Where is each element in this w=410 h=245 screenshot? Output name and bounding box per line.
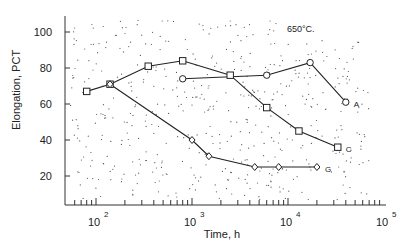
y-tick-label: 20	[40, 170, 52, 182]
x-tick-label: 10	[376, 216, 388, 228]
diamond-marker	[276, 164, 282, 171]
x-tick-label: 10	[88, 216, 100, 228]
series-label-G: G	[325, 165, 331, 174]
series-labels: ACG	[325, 100, 360, 174]
diamond-marker	[252, 164, 258, 171]
circle-marker	[343, 99, 349, 105]
series-G-line	[110, 84, 317, 167]
series-label-A: A	[354, 100, 360, 109]
square-marker	[83, 88, 89, 94]
svg-text:4: 4	[296, 210, 301, 219]
y-tick-label: 40	[40, 134, 52, 146]
series-lines	[87, 61, 346, 167]
temperature-annotation: 650°C.	[287, 24, 315, 34]
svg-text:5: 5	[392, 210, 397, 219]
svg-text:2: 2	[104, 210, 109, 219]
x-axis-ticks: 10 210 310 410 5	[75, 198, 397, 228]
y-tick-label: 100	[34, 26, 52, 38]
elongation-vs-time-chart: 20406080100 10 210 310 410 5 ACG 650°C. …	[0, 0, 410, 245]
y-axis-label: Elongation, PCT	[10, 50, 22, 130]
x-tick-label: 10	[280, 216, 292, 228]
circle-marker	[307, 59, 313, 65]
x-tick-label: 10	[184, 216, 196, 228]
series-label-C: C	[346, 145, 352, 154]
y-tick-label: 80	[40, 62, 52, 74]
square-marker	[179, 58, 185, 64]
circle-marker	[179, 76, 185, 82]
square-marker	[227, 72, 233, 78]
y-tick-label: 60	[40, 98, 52, 110]
square-marker	[296, 128, 302, 134]
square-marker	[264, 104, 270, 110]
series-markers	[83, 58, 349, 171]
diamond-marker	[314, 164, 320, 171]
svg-text:3: 3	[200, 210, 205, 219]
square-marker	[335, 144, 341, 150]
circle-marker	[264, 72, 270, 78]
square-marker	[145, 63, 151, 69]
x-axis-label: Time, h	[204, 228, 240, 240]
